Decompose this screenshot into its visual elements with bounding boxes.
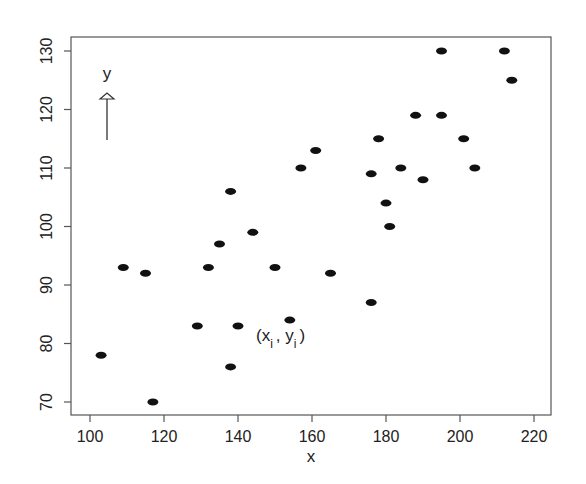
data-point (225, 363, 236, 370)
y-tick-label: 100 (38, 213, 55, 240)
y-arrow-label: y (103, 64, 112, 83)
data-point (436, 112, 447, 119)
y-tick-label: 110 (38, 155, 55, 181)
data-point (458, 135, 469, 142)
data-point (381, 200, 392, 207)
data-point (325, 270, 336, 277)
y-tick-label: 90 (38, 276, 55, 294)
y-tick-label: 80 (38, 335, 55, 353)
x-axis: 100120140160180200220 (77, 415, 548, 445)
x-tick-label: 220 (521, 428, 548, 445)
point-label: (xi, yi) (256, 326, 305, 351)
x-tick-label: 180 (373, 428, 400, 445)
data-point (506, 77, 517, 84)
x-tick-label: 140 (225, 428, 252, 445)
data-point (366, 170, 377, 177)
data-point (192, 322, 203, 329)
data-point (140, 270, 151, 277)
data-point (366, 299, 377, 306)
x-axis-title: x (307, 447, 316, 466)
data-point (373, 135, 384, 142)
data-point (384, 223, 395, 230)
data-point (395, 165, 406, 172)
y-tick-label: 120 (38, 96, 55, 123)
data-point (247, 229, 258, 236)
data-point (295, 165, 306, 172)
data-point (270, 264, 281, 271)
data-point (225, 188, 236, 195)
data-point (469, 165, 480, 172)
plot-frame (71, 37, 551, 415)
data-point (436, 48, 447, 55)
x-tick-label: 200 (447, 428, 474, 445)
scatter-plot: 100120140160180200220 708090100110120130… (0, 0, 586, 484)
data-point (203, 264, 214, 271)
y-tick-label: 130 (38, 38, 55, 65)
data-point (233, 322, 244, 329)
data-point (284, 317, 295, 324)
data-points (96, 48, 518, 406)
x-tick-label: 160 (299, 428, 326, 445)
data-point (499, 48, 510, 55)
y-tick-label: 70 (38, 393, 55, 411)
data-point (214, 241, 225, 248)
data-point (96, 352, 107, 359)
data-point (310, 147, 321, 154)
data-point (118, 264, 129, 271)
up-arrow-icon (100, 93, 114, 140)
y-axis: 708090100110120130 (38, 38, 71, 411)
x-tick-label: 100 (77, 428, 104, 445)
data-point (147, 399, 158, 406)
data-point (418, 176, 429, 183)
x-tick-label: 120 (151, 428, 178, 445)
data-point (410, 112, 421, 119)
